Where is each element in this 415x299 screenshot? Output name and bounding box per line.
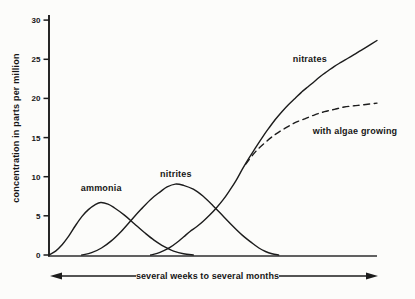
nitrogen-cycle-chart: 051015202530concentration in parts per m… [0, 0, 415, 299]
nitrites-curve [82, 184, 279, 255]
y-tick-label: 5 [36, 212, 41, 221]
nitrites-label: nitrites [160, 169, 192, 179]
y-tick-label: 0 [36, 251, 41, 260]
with-algae-growing-label: with algae growing [312, 126, 398, 136]
y-tick-label: 10 [32, 173, 41, 182]
y-axis-title: concentration in parts per million [11, 53, 21, 202]
y-tick-label: 30 [32, 16, 41, 25]
ammonia-label: ammonia [81, 183, 123, 193]
nitrates-label: nitrates [293, 54, 327, 64]
nitrogen-cycle-figure: 051015202530concentration in parts per m… [0, 0, 415, 299]
right-arrowhead-icon [366, 272, 378, 279]
x-axis-title: several weeks to several months [136, 271, 279, 281]
nitrates-curve [151, 41, 377, 256]
y-tick-label: 15 [32, 134, 41, 143]
y-tick-label: 20 [32, 94, 41, 103]
left-arrowhead-icon [50, 272, 62, 279]
y-tick-label: 25 [32, 55, 41, 64]
